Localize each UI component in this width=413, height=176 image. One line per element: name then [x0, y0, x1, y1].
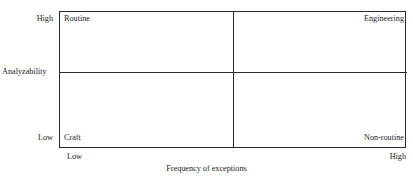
x-axis-tick-low: Low [67, 152, 82, 162]
matrix-vertical-divider [233, 11, 234, 148]
x-axis-tick-high: High [390, 152, 406, 162]
quadrant-label-routine: Routine [64, 14, 90, 24]
y-axis-title: Analyzability [0, 67, 56, 77]
y-axis-tick-low: Low [0, 133, 53, 143]
technology-matrix-figure: Routine Engineering Craft Non-routine Hi… [0, 0, 413, 176]
matrix-horizontal-divider [59, 72, 407, 73]
x-axis-title: Frequency of exceptions [0, 164, 413, 174]
quadrant-label-non-routine: Non-routine [364, 133, 404, 143]
y-axis-tick-high: High [0, 14, 53, 24]
quadrant-label-engineering: Engineering [364, 14, 404, 24]
quadrant-label-craft: Craft [64, 133, 81, 143]
